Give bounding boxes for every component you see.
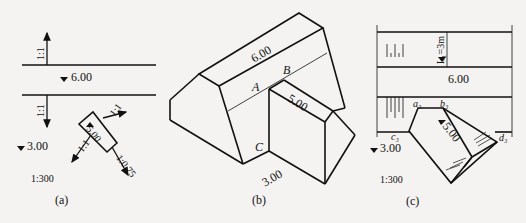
point-b-b: B [283, 64, 290, 76]
panel-b-drawing [170, 13, 355, 184]
point-b-c: C [255, 141, 263, 153]
slope-label-a-lower: 1:1 [36, 104, 46, 117]
scale-a: 1:300 [31, 174, 54, 184]
slope-label-a-upper: 1:1 [36, 47, 46, 60]
figure-root: 1:1 1:1 6.00 3.00 5.00 1:1 1:1 1:0.75 1:… [0, 0, 526, 223]
point-c-d: d₃ [499, 133, 507, 143]
point-b-a: A [252, 81, 259, 93]
elevation-c-low: 3.00 [380, 142, 401, 154]
point-c-b: b₃ [440, 99, 448, 109]
point-c-a: a₃ [413, 99, 421, 109]
elevation-a-low: 3.00 [27, 140, 48, 152]
elevation-c-top: 6.00 [448, 73, 469, 85]
caption-a: (a) [55, 194, 68, 206]
scale-c: 1:300 [380, 175, 403, 185]
elevation-a-top: 6.00 [71, 71, 92, 83]
length-label-c: L₁=3m [436, 36, 446, 64]
caption-b: (b) [252, 194, 266, 206]
caption-c: (c) [406, 195, 419, 207]
diagram-lines [0, 0, 526, 223]
